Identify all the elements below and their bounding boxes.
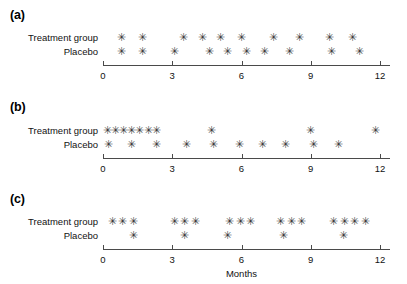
data-mark: ✳: [269, 32, 278, 43]
axis-line: [103, 158, 390, 159]
data-mark: ✳: [127, 139, 136, 150]
data-mark: ✳: [237, 32, 246, 43]
axis-tick-label: 12: [375, 163, 386, 174]
panel-letter: (c): [10, 192, 25, 206]
axis-tick-label: 3: [170, 163, 175, 174]
data-mark: ✳: [129, 216, 138, 227]
data-mark: ✳: [104, 139, 113, 150]
data-mark: ✳: [235, 139, 244, 150]
axis-title: Months: [226, 268, 257, 279]
data-mark: ✳: [117, 46, 126, 57]
data-mark: ✳: [258, 139, 267, 150]
axis-tick-label: 6: [239, 70, 244, 81]
axis-tick: [311, 245, 312, 250]
data-mark: ✳: [216, 32, 225, 43]
data-mark: ✳: [309, 139, 318, 150]
axis-tick: [103, 245, 104, 250]
data-mark: ✳: [287, 216, 296, 227]
data-mark: ✳: [108, 216, 117, 227]
axis-tick-label: 6: [239, 254, 244, 265]
axis-tick: [242, 245, 243, 250]
data-mark: ✳: [170, 216, 179, 227]
data-mark: ✳: [170, 46, 179, 57]
data-mark: ✳: [334, 139, 343, 150]
axis-tick-label: 6: [239, 163, 244, 174]
data-mark: ✳: [329, 216, 338, 227]
data-mark: ✳: [236, 216, 245, 227]
data-mark: ✳: [225, 216, 234, 227]
axis-tick-label: 9: [308, 163, 313, 174]
axis-tick-label: 3: [170, 70, 175, 81]
data-mark: ✳: [223, 46, 232, 57]
data-mark: ✳: [118, 216, 127, 227]
data-mark: ✳: [209, 139, 218, 150]
data-mark: ✳: [348, 32, 357, 43]
axis-tick-label: 9: [308, 254, 313, 265]
axis-tick: [380, 245, 381, 250]
data-mark: ✳: [182, 139, 191, 150]
data-mark: ✳: [242, 46, 251, 57]
axis-line: [103, 249, 390, 250]
row-label-treatment: Treatment group: [0, 217, 98, 227]
data-mark: ✳: [279, 230, 288, 241]
data-mark: ✳: [207, 125, 216, 136]
data-mark: ✳: [180, 230, 189, 241]
data-mark: ✳: [355, 46, 364, 57]
axis-tick: [380, 61, 381, 66]
data-mark: ✳: [306, 125, 315, 136]
data-mark: ✳: [180, 216, 189, 227]
data-mark: ✳: [350, 216, 359, 227]
data-mark: ✳: [138, 46, 147, 57]
data-mark: ✳: [205, 46, 214, 57]
panel-letter: (a): [10, 8, 25, 22]
data-mark: ✳: [129, 230, 138, 241]
axis-tick-label: 0: [100, 70, 105, 81]
panel-letter: (b): [10, 100, 25, 114]
data-mark: ✳: [117, 32, 126, 43]
axis-tick: [311, 154, 312, 159]
row-label-treatment: Treatment group: [0, 33, 98, 43]
axis-tick: [103, 61, 104, 66]
axis-tick: [172, 61, 173, 66]
data-mark: ✳: [246, 216, 255, 227]
axis-tick: [380, 154, 381, 159]
data-mark: ✳: [297, 216, 306, 227]
row-label-placebo: Placebo: [0, 140, 98, 150]
data-mark: ✳: [260, 46, 269, 57]
data-mark: ✳: [340, 216, 349, 227]
data-mark: ✳: [327, 46, 336, 57]
axis-tick: [103, 154, 104, 159]
axis-tick-label: 3: [170, 254, 175, 265]
data-mark: ✳: [325, 32, 334, 43]
data-mark: ✳: [371, 125, 380, 136]
axis-tick-label: 0: [100, 163, 105, 174]
row-label-placebo: Placebo: [0, 47, 98, 57]
data-mark: ✳: [179, 32, 188, 43]
axis-tick: [172, 154, 173, 159]
axis-tick-label: 0: [100, 254, 105, 265]
data-mark: ✳: [339, 230, 348, 241]
data-mark: ✳: [191, 216, 200, 227]
axis-tick-label: 12: [375, 70, 386, 81]
data-mark: ✳: [361, 216, 370, 227]
data-mark: ✳: [198, 32, 207, 43]
figure-container: (a)Treatment groupPlacebo✳✳✳✳✳✳✳✳✳✳✳✳✳✳✳…: [0, 0, 407, 284]
row-label-placebo: Placebo: [0, 231, 98, 241]
data-mark: ✳: [285, 46, 294, 57]
axis-tick: [242, 154, 243, 159]
axis-tick-label: 12: [375, 254, 386, 265]
data-mark: ✳: [138, 32, 147, 43]
axis-tick: [242, 61, 243, 66]
row-label-treatment: Treatment group: [0, 126, 98, 136]
data-mark: ✳: [295, 32, 304, 43]
data-mark: ✳: [152, 139, 161, 150]
data-mark: ✳: [276, 216, 285, 227]
axis-tick: [172, 245, 173, 250]
axis-tick-label: 9: [308, 70, 313, 81]
data-mark: ✳: [223, 230, 232, 241]
data-mark: ✳: [152, 125, 161, 136]
axis-tick: [311, 61, 312, 66]
axis-line: [103, 65, 390, 66]
data-mark: ✳: [281, 139, 290, 150]
